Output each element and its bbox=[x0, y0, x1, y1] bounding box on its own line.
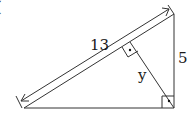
hypotenuse-label: 13 bbox=[90, 36, 109, 54]
leg-label: 5 bbox=[178, 49, 188, 67]
tick-left bbox=[16, 96, 22, 108]
triangle-diagram: ( 13 5 y bbox=[0, 0, 192, 118]
right-angle-dot-corner bbox=[168, 100, 170, 102]
triangle bbox=[24, 14, 174, 108]
right-angle-dot-foot bbox=[129, 49, 131, 51]
dimension-line bbox=[21, 9, 169, 101]
hypotenuse bbox=[24, 14, 174, 108]
altitude-label: y bbox=[137, 66, 147, 84]
part-label: ( bbox=[0, 0, 2, 16]
arrow-right-icon bbox=[162, 8, 169, 16]
hypotenuse-dimension bbox=[16, 5, 174, 108]
right-angle-marker-foot bbox=[122, 47, 138, 57]
